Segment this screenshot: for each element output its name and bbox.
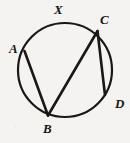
- circle-diagram-svg: [0, 0, 130, 143]
- point-label-b: B: [43, 122, 52, 135]
- point-label-c: C: [100, 13, 109, 26]
- geometry-figure: X C A D B: [0, 0, 130, 143]
- point-label-a: A: [9, 42, 18, 55]
- point-label-x: X: [54, 3, 63, 16]
- chord-b-c: [48, 31, 98, 116]
- point-label-d: D: [115, 97, 124, 110]
